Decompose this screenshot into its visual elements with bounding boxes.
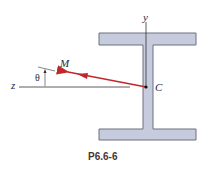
figure-p6-6-6: y z M θ C P6.6-6: [0, 0, 208, 171]
angle-arrowhead-icon: [44, 69, 47, 73]
moment-label: M: [60, 58, 69, 69]
ibeam-diagram: [0, 0, 208, 171]
moment-double-arrowhead-icon: [77, 73, 88, 79]
angle-label: θ: [35, 73, 40, 83]
centroid-label: C: [155, 82, 162, 93]
angle-reference-line: [38, 67, 55, 71]
figure-caption: P6.6-6: [88, 152, 117, 162]
centroid-point: [144, 85, 147, 88]
y-axis-label: y: [143, 12, 148, 23]
z-axis-label: z: [11, 80, 15, 91]
